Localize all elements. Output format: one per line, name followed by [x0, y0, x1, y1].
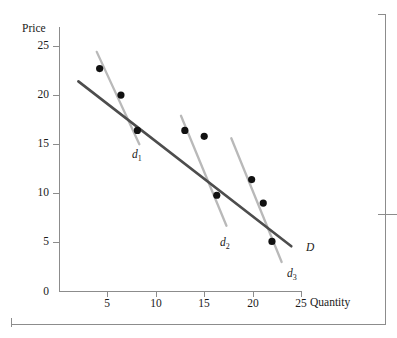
data-point — [213, 192, 220, 199]
short-run-demand-segments — [97, 52, 282, 262]
curve-label-d2: d2 — [220, 236, 230, 251]
curve-label-d3: d3 — [287, 267, 297, 282]
data-point — [268, 238, 275, 245]
scatter-points — [96, 65, 276, 245]
curve-label-d1: d1 — [132, 148, 142, 163]
series-line-d1 — [97, 52, 140, 144]
data-point — [96, 65, 103, 72]
plot-area — [0, 0, 397, 338]
series-line-D — [78, 81, 291, 246]
data-point — [248, 176, 255, 183]
data-point — [117, 92, 124, 99]
data-point — [201, 133, 208, 140]
curve-label-D: D — [306, 241, 314, 253]
data-point — [181, 127, 188, 134]
demand-curve-figure: Price Quantity 25 20 15 10 5 0 5 10 15 2… — [0, 0, 397, 338]
data-point — [134, 127, 141, 134]
data-point — [260, 200, 267, 207]
long-run-demand-line — [78, 81, 291, 246]
